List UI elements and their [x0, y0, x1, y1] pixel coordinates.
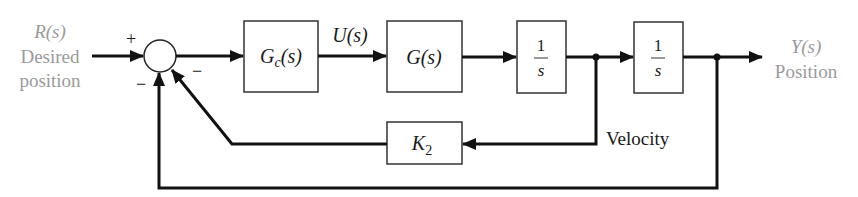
output-label: Y(s) Position	[775, 36, 838, 82]
integrator-2-denominator: s	[655, 61, 662, 80]
input-signal-label: R(s)	[33, 21, 66, 43]
input-desc-line1: Desired	[20, 46, 80, 67]
integrator-2-numerator: 1	[654, 36, 663, 55]
integrator-block-1	[517, 21, 566, 93]
block-diagram: R(s) Desired position + − − Gc(s) U(s) G…	[0, 0, 858, 197]
minus-sign-velocity: −	[192, 61, 202, 81]
control-signal-label: U(s)	[332, 24, 368, 47]
plus-sign: +	[126, 29, 136, 49]
output-desc: Position	[775, 61, 838, 82]
input-desc-line2: position	[19, 70, 81, 91]
plant-label: G(s)	[406, 46, 442, 69]
input-label: R(s) Desired position	[19, 21, 81, 91]
velocity-label: Velocity	[606, 128, 670, 149]
integrator-1-denominator: s	[538, 61, 545, 80]
integrator-1-numerator: 1	[537, 36, 546, 55]
summing-junction	[144, 40, 176, 72]
controller-label: Gc(s)	[260, 45, 302, 70]
minus-sign-position: −	[136, 74, 146, 94]
output-signal-label: Y(s)	[791, 36, 822, 58]
